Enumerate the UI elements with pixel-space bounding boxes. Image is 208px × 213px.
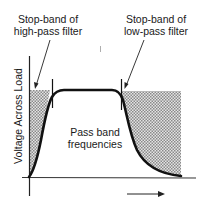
label-line: high-pass filter xyxy=(8,25,88,37)
x-axis xyxy=(22,178,196,179)
label-line: Pass band xyxy=(60,126,130,138)
right-pointer-arrow xyxy=(126,40,144,86)
y-axis-label: Voltage Across Load xyxy=(12,61,24,171)
label-line: frequencies xyxy=(60,138,130,150)
left-pointer-arrow xyxy=(36,40,50,86)
high-pass-stopband-shade xyxy=(29,90,50,177)
passband-label: Pass band frequencies xyxy=(60,126,130,150)
label-line: low-pass filter xyxy=(112,25,200,37)
left-pointer-arrowhead-icon xyxy=(34,82,39,89)
right-pointer-arrowhead-icon xyxy=(125,82,129,89)
label-line: Stop-band of xyxy=(112,13,200,25)
frequency-arrow-head-icon xyxy=(158,191,165,197)
high-pass-stopband-label: Stop-band of high-pass filter xyxy=(8,13,88,37)
label-line: Stop-band of xyxy=(8,13,88,25)
low-pass-stopband-label: Stop-band of low-pass filter xyxy=(112,13,200,37)
